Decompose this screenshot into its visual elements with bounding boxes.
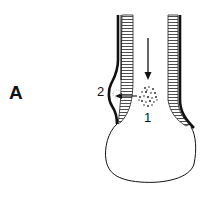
particle-cluster	[138, 86, 157, 107]
label-1: 1	[144, 110, 151, 125]
right-wall	[168, 15, 194, 128]
down-arrow-icon	[145, 38, 152, 80]
vessel-diagram	[0, 0, 212, 212]
panel-label: A	[9, 82, 23, 104]
left-wall	[109, 15, 133, 124]
label-2: 2	[97, 84, 104, 99]
bulb-outline	[105, 124, 195, 182]
